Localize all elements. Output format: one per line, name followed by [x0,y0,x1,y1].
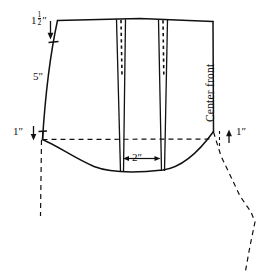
dart-2-center-foldline [163,20,164,75]
dart-1-right-leg [124,19,126,171]
hip-left-label: 1″ [13,126,23,137]
hip-right-label: 1″ [236,126,246,137]
pattern-diagram: 112″ 5″ 1″ 1″ 2″ Center front [0,0,273,276]
hem-sweep-curve [43,132,214,172]
lower-right-guide-dashed [214,132,256,271]
dart-2-left-leg [159,20,162,171]
hip-right-arrow [226,130,232,144]
left-vertical-guide-dashed [41,140,42,216]
waist-extension-label: 112″ [31,11,47,26]
waist-extension-arrow [48,21,54,40]
hip-left-arrow [31,126,37,141]
side-seam-edge [43,21,58,140]
waist-extension-unit: ″ [42,14,47,26]
dart-1 [117,19,126,171]
dart-1-center-foldline [121,20,122,75]
waist-extension-numerator: 1 [38,11,42,18]
dart-2 [159,20,168,171]
side-seam-tick-upper [49,42,59,43]
dart-spacing-label: 2″ [132,152,142,163]
waist-extension-denominator: 2 [38,19,42,26]
hip-line-dashed [43,139,214,140]
side-seam-label: 5″ [33,71,43,82]
center-front-label: Center front [205,64,217,122]
dart-1-left-leg [117,19,121,171]
dart-2-right-leg [165,20,168,171]
waistline-edge [58,19,214,22]
pattern-drawing-canvas [0,0,273,276]
